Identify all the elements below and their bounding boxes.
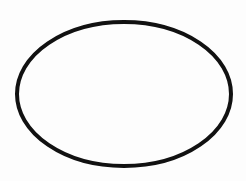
ellipse-shape: [17, 22, 231, 166]
diagram-svg: [0, 0, 246, 181]
diagram-canvas: [0, 0, 246, 181]
